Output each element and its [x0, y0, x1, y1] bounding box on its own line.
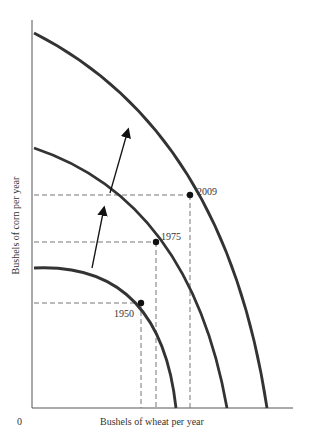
dashed-guides [34, 195, 190, 408]
origin-label: 0 [17, 416, 22, 427]
shift-arrow-lower [92, 208, 104, 268]
label-2009: 2009 [197, 186, 217, 197]
point-1950 [138, 300, 144, 306]
label-1950: 1950 [114, 308, 134, 319]
ppf-diagram [0, 0, 315, 434]
shift-arrow-upper [110, 130, 128, 193]
y-axis-label: Bushels of corn per year [10, 161, 21, 291]
point-2009 [187, 192, 193, 198]
point-1975 [153, 239, 159, 245]
ppf-curve-2009 [34, 33, 267, 408]
x-axis-label: Bushels of wheat per year [100, 416, 204, 427]
label-1975: 1975 [161, 231, 181, 242]
ppf-curve-1950 [34, 268, 176, 408]
